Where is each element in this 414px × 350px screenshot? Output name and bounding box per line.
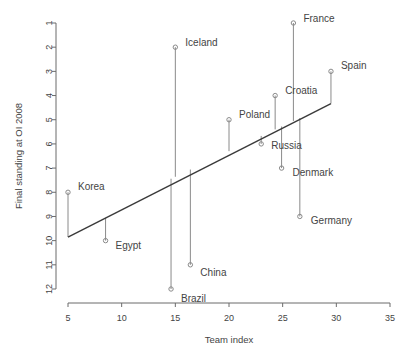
y-tick-label-10: 10 — [44, 236, 54, 246]
y-tick-label-7: 7 — [44, 166, 54, 171]
point-label-spain: Spain — [341, 60, 367, 71]
scatter-plot-figure: 123456789101112Final standing at OI 2008… — [0, 0, 414, 350]
point-label-brazil: Brazil — [181, 293, 206, 304]
x-axis-title: Team index — [205, 334, 254, 345]
point-label-denmark: Denmark — [293, 167, 335, 178]
x-tick-label-15: 15 — [170, 313, 180, 323]
regression-line — [68, 104, 331, 237]
y-tick-label-3: 3 — [44, 69, 54, 74]
y-tick-label-4: 4 — [44, 93, 54, 98]
y-tick-label-6: 6 — [44, 141, 54, 146]
point-label-poland: Poland — [239, 109, 270, 120]
x-tick-label-20: 20 — [224, 313, 234, 323]
point-label-germany: Germany — [311, 215, 352, 226]
y-tick-label-11: 11 — [44, 260, 54, 269]
point-label-egypt: Egypt — [116, 240, 142, 251]
y-tick-label-12: 12 — [44, 284, 54, 294]
x-tick-label-10: 10 — [117, 313, 127, 323]
y-tick-label-5: 5 — [44, 117, 54, 122]
y-tick-label-2: 2 — [44, 45, 54, 50]
point-label-croatia: Croatia — [285, 85, 318, 96]
point-label-korea: Korea — [78, 181, 105, 192]
x-tick-label-35: 35 — [385, 313, 395, 323]
point-label-china: China — [200, 267, 227, 278]
y-tick-label-1: 1 — [44, 20, 54, 25]
y-axis-title: Final standing at OI 2008 — [13, 103, 24, 209]
x-tick-label-25: 25 — [278, 313, 288, 323]
point-label-iceland: Iceland — [185, 37, 217, 48]
x-tick-label-30: 30 — [331, 313, 341, 323]
y-tick-label-9: 9 — [44, 214, 54, 219]
plot-canvas: 123456789101112Final standing at OI 2008… — [0, 0, 414, 350]
point-label-france: France — [303, 13, 335, 24]
y-tick-label-8: 8 — [44, 190, 54, 195]
x-tick-label-5: 5 — [65, 313, 70, 323]
point-label-russia: Russia — [271, 140, 302, 151]
